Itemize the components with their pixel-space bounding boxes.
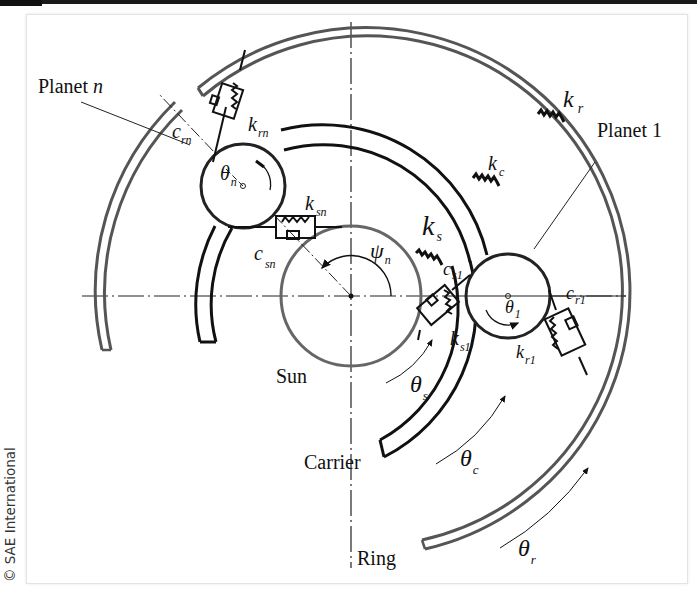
sun-label: Sun xyxy=(276,365,307,387)
k-c-symbol: kc xyxy=(488,152,505,179)
c-sn-symbol: csn xyxy=(254,242,276,271)
theta-s-arrow xyxy=(386,340,432,383)
k-r1-symbol: kr1 xyxy=(516,342,536,367)
carrier-label: Carrier xyxy=(304,451,361,473)
spring-k-s xyxy=(416,250,442,265)
theta-s-symbol: θs xyxy=(410,371,428,403)
spring-k-c xyxy=(473,174,499,186)
planet-1-label: Planet 1 xyxy=(597,119,662,141)
theta-r-symbol: θr xyxy=(518,535,537,567)
psi-n-symbol: ψn xyxy=(370,238,391,267)
planetary-gear-diagram: Planet n Planet 1 Sun Carrier Ring kr kc… xyxy=(0,0,697,600)
c-s1-symbol: cs1 xyxy=(443,259,463,282)
k-sn-symbol: ksn xyxy=(305,192,327,219)
planet-n-label: Planet n xyxy=(38,75,103,97)
theta-r-arrow xyxy=(500,468,588,548)
spring-damper-s1 xyxy=(417,275,470,340)
ring-label: Ring xyxy=(357,547,396,570)
k-r-symbol: kr xyxy=(563,86,584,116)
theta-c-symbol: θc xyxy=(460,445,479,477)
c-r1-symbol: cr1 xyxy=(566,283,586,307)
k-s-symbol: ks xyxy=(422,210,442,244)
c-rn-symbol: crn xyxy=(172,120,192,147)
planet-1-leader xyxy=(534,162,595,249)
k-rn-symbol: krn xyxy=(248,113,269,140)
